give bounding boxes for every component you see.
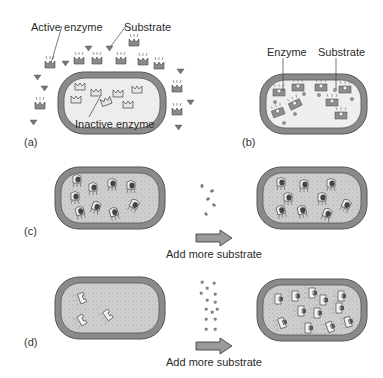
substrate-label-b: Substrate: [318, 46, 365, 58]
panel-letter-c: (c): [24, 225, 37, 237]
active-enzyme-label: Active enzyme: [31, 21, 103, 33]
add-substrate-label-c: Add more substrate: [166, 248, 262, 260]
panel-c: [55, 167, 367, 246]
panel-letter-d: (d): [24, 336, 37, 348]
panel-b: [260, 58, 367, 134]
panel-letter-a: (a): [24, 136, 37, 148]
arrow-c: [196, 230, 232, 246]
substrate-squares-d: [200, 281, 218, 330]
enzyme-label-b: Enzyme: [267, 46, 307, 58]
cell-d-left-interior: [61, 283, 159, 333]
substrate-ovals-c: [201, 184, 217, 216]
enzyme-diagram: Active enzyme Substrate Inactive enzyme …: [0, 0, 383, 378]
panel-letter-b: (b): [242, 136, 255, 148]
panel-d: [55, 277, 367, 354]
inactive-enzyme-label: Inactive enzyme: [75, 118, 154, 130]
substrate-label-a: Substrate: [124, 21, 171, 33]
arrow-d: [196, 338, 232, 354]
add-substrate-label-d: Add more substrate: [166, 356, 262, 368]
